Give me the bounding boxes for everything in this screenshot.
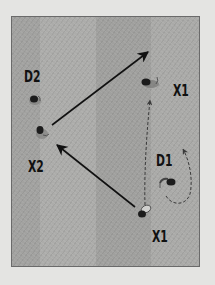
- label-x1-bottom: X1: [152, 230, 168, 245]
- label-d2: D2: [24, 70, 40, 85]
- player-x2: [36, 126, 49, 139]
- pass-arrow-x2-to-top: [52, 52, 148, 125]
- cut-arrow-x1: [145, 100, 150, 205]
- player-d2: [29, 96, 41, 106]
- player-d1: [160, 179, 176, 189]
- player-x1-top: [142, 77, 160, 88]
- pass-arrow-x1-to-x2: [57, 145, 135, 207]
- play-diagram: [0, 0, 215, 285]
- player-x1-bottom: [138, 204, 152, 218]
- label-x1-top: X1: [173, 84, 189, 99]
- label-d1: D1: [156, 154, 172, 169]
- label-x2: X2: [28, 160, 44, 175]
